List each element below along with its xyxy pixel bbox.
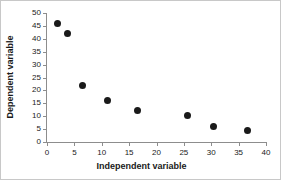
y-tick-label: 50 (32, 9, 41, 17)
y-axis-title-label: Dependent variable (5, 35, 15, 118)
y-tick (43, 90, 47, 91)
y-tick (43, 26, 47, 27)
y-tick-label: 45 (32, 22, 41, 30)
x-tick-label: 40 (262, 149, 271, 157)
x-tick (184, 142, 185, 146)
y-tick (43, 78, 47, 79)
x-tick (102, 142, 103, 146)
y-tick-label: 40 (32, 35, 41, 43)
data-point (64, 30, 71, 37)
x-tick-label: 30 (207, 149, 216, 157)
data-point (104, 97, 111, 104)
y-tick-label: 15 (32, 99, 41, 107)
y-tick-label: 20 (32, 86, 41, 94)
y-tick (43, 39, 47, 40)
x-tick (129, 142, 130, 146)
y-tick (43, 13, 47, 14)
y-tick (43, 129, 47, 130)
data-point (54, 20, 61, 27)
y-tick-label: 35 (32, 48, 41, 56)
x-tick-label: 5 (72, 149, 76, 157)
data-point (134, 107, 141, 114)
x-tick-label: 10 (97, 149, 106, 157)
x-tick-label: 20 (152, 149, 161, 157)
y-tick-label: 25 (32, 74, 41, 82)
x-tick (74, 142, 75, 146)
y-axis-title: Dependent variable (3, 1, 17, 153)
y-tick (43, 116, 47, 117)
x-tick-label: 25 (179, 149, 188, 157)
y-tick-label: 30 (32, 61, 41, 69)
x-tick (211, 142, 212, 146)
scatter-plot-figure: Dependent variable 05101520253035404550 … (0, 0, 281, 180)
y-tick (43, 65, 47, 66)
x-tick-label: 0 (45, 149, 49, 157)
y-tick-label: 10 (32, 112, 41, 120)
data-point (184, 112, 191, 119)
x-tick (47, 142, 48, 146)
x-tick (266, 142, 267, 146)
y-tick (43, 52, 47, 53)
x-tick-label: 35 (234, 149, 243, 157)
plot-area: 05101520253035404550 0510152025303540 (47, 13, 266, 142)
x-axis-title: Independent variable (1, 161, 281, 171)
data-point (79, 82, 86, 89)
y-tick-label: 5 (37, 125, 41, 133)
x-tick (157, 142, 158, 146)
data-point (210, 123, 217, 130)
y-tick (43, 103, 47, 104)
data-point (244, 127, 251, 134)
y-tick-label: 0 (37, 138, 41, 146)
x-tick-label: 15 (125, 149, 134, 157)
x-tick (239, 142, 240, 146)
